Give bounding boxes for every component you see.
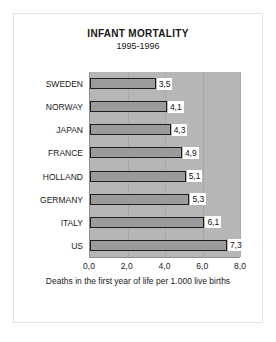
bar: 7,3 <box>90 240 227 251</box>
bar-value-label: 4,3 <box>172 124 188 136</box>
bar-row: 4,3 <box>90 118 240 141</box>
bar-value-label: 4,9 <box>183 147 199 159</box>
category-axis: SWEDENNORWAYJAPANFRANCEHOLLANDGERMANYITA… <box>14 72 89 258</box>
bar: 3,5 <box>90 78 156 89</box>
bar-value-label: 3,5 <box>157 78 173 90</box>
bar: 6,1 <box>90 217 204 228</box>
bar-row: 5,1 <box>90 165 240 188</box>
category-label: ITALY <box>14 212 89 235</box>
bar-row: 3,5 <box>90 72 240 95</box>
chart-figure: INFANT MORTALITY 1995-1996 SWEDENNORWAYJ… <box>13 13 263 323</box>
bar: 5,1 <box>90 171 186 182</box>
bar-row: 6,1 <box>90 211 240 234</box>
bar-value-label: 5,3 <box>190 193 206 205</box>
category-label: HOLLAND <box>14 165 89 188</box>
category-label: SWEDEN <box>14 72 89 95</box>
axis-tick-label: 2,0 <box>121 261 133 271</box>
bar-value-label: 4,1 <box>168 101 184 113</box>
bar-value-label: 6,1 <box>205 216 221 228</box>
chart-title: INFANT MORTALITY <box>14 27 262 40</box>
plot-wrapper: SWEDENNORWAYJAPANFRANCEHOLLANDGERMANYITA… <box>14 59 264 257</box>
category-label: NORWAY <box>14 95 89 118</box>
category-label: US <box>14 235 89 258</box>
axis-tick-label: 4,0 <box>159 261 171 271</box>
bar: 4,1 <box>90 101 167 112</box>
bar-value-label: 7,3 <box>228 239 244 251</box>
category-label: GERMANY <box>14 188 89 211</box>
bar: 4,9 <box>90 147 182 158</box>
gridline <box>240 72 241 257</box>
bar: 5,3 <box>90 194 189 205</box>
bar-value-label: 5,1 <box>187 170 203 182</box>
plot-area: 3,54,14,34,95,15,36,17,3 <box>89 72 240 258</box>
bar-row: 4,1 <box>90 95 240 118</box>
bar-row: 5,3 <box>90 188 240 211</box>
chart-caption: Deaths in the first year of life per 1.0… <box>14 276 262 286</box>
bar-row: 7,3 <box>90 234 240 257</box>
chart-subtitle: 1995-1996 <box>14 40 262 53</box>
bar: 4,3 <box>90 124 171 135</box>
bar-series: 3,54,14,34,95,15,36,17,3 <box>90 72 240 257</box>
axis-tick-label: 6,0 <box>196 261 208 271</box>
title-block: INFANT MORTALITY 1995-1996 <box>14 27 262 53</box>
value-axis: 0,02,04,06,08,0 <box>89 259 240 275</box>
category-label: FRANCE <box>14 142 89 165</box>
axis-tick-label: 0,0 <box>83 261 95 271</box>
bar-row: 4,9 <box>90 141 240 164</box>
axis-tick-label: 8,0 <box>234 261 246 271</box>
category-label: JAPAN <box>14 119 89 142</box>
